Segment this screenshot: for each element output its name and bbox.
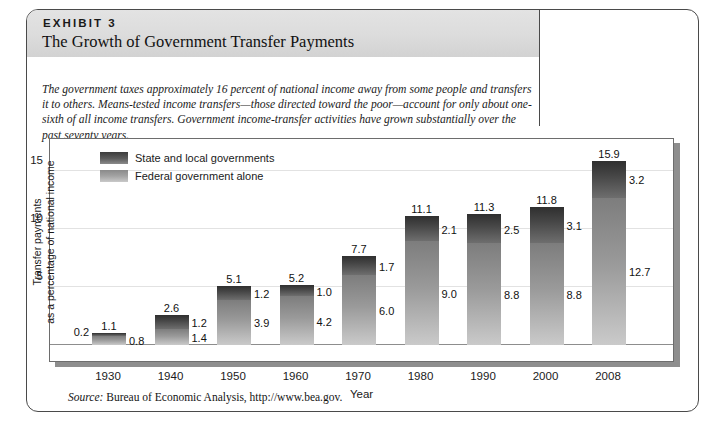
- bar-segment-state-local: [155, 315, 189, 329]
- bar-state-local-label: 1.2: [254, 288, 269, 300]
- source-line: Source: Bureau of Economic Analysis, htt…: [68, 391, 342, 403]
- bar-total-label: 11.8: [536, 194, 557, 206]
- bar-group[interactable]: 5.11.23.9: [217, 286, 251, 345]
- bar-group[interactable]: 7.71.76.0: [342, 256, 376, 345]
- legend-item[interactable]: State and local governments: [100, 150, 274, 165]
- x-axis-tick-label: 1990: [470, 370, 496, 382]
- bar-segment-federal: [530, 243, 564, 345]
- bar-segment-federal: [405, 241, 439, 345]
- exhibit-kicker: EXHIBIT 3: [43, 17, 117, 29]
- bar-segment-state-local: [280, 285, 314, 297]
- x-axis-ticks: 193019401950196019701980199020002008: [49, 370, 674, 386]
- bar-state-local-label: 0.2: [74, 326, 89, 338]
- page-title: The Growth of Government Transfer Paymen…: [42, 32, 354, 52]
- bar-segment-federal: [217, 300, 251, 345]
- bar-group[interactable]: 11.32.58.8: [467, 214, 501, 345]
- bar-segment-federal: [155, 329, 189, 345]
- plot-area: State and local governmentsFederal gover…: [49, 138, 674, 362]
- bar-total-label: 11.1: [411, 203, 432, 215]
- bar-group[interactable]: 15.93.212.7: [592, 161, 626, 345]
- bar-segment-state-local: [530, 207, 564, 243]
- x-axis-tick-label: 1940: [158, 370, 184, 382]
- bar-group[interactable]: 1.10.20.8: [92, 333, 126, 345]
- bar-federal-label: 1.4: [192, 332, 207, 344]
- exhibit-header-band: EXHIBIT 3 The Growth of Government Trans…: [27, 10, 539, 57]
- bar-state-local-label: 3.2: [629, 174, 644, 186]
- x-axis-tick-label: 1950: [220, 370, 246, 382]
- exhibit-frame: EXHIBIT 3 The Growth of Government Trans…: [26, 9, 699, 412]
- bar-total-label: 15.9: [598, 148, 619, 160]
- bar-federal-label: 3.9: [254, 317, 269, 329]
- bar-group[interactable]: 11.83.18.8: [530, 207, 564, 345]
- bar-segment-state-local: [405, 216, 439, 240]
- bar-state-local-label: 2.1: [442, 224, 457, 236]
- x-axis-tick-label: 1970: [345, 370, 371, 382]
- x-axis-tick-label: 1930: [95, 370, 121, 382]
- bar-state-local-label: 3.1: [567, 220, 582, 232]
- source-text: Bureau of Economic Analysis, http://www.…: [103, 391, 342, 403]
- bar-segment-federal: [92, 336, 126, 345]
- exhibit-description: The government taxes approximately 16 pe…: [42, 82, 537, 144]
- header-divider: [539, 10, 540, 126]
- bar-total-label: 1.1: [101, 320, 116, 332]
- legend-label: Federal government alone: [135, 170, 263, 182]
- bar-segment-federal: [467, 243, 501, 345]
- bar-total-label: 5.2: [289, 272, 304, 284]
- bar-group[interactable]: 11.12.19.0: [405, 216, 439, 345]
- bar-segment-federal: [280, 296, 314, 345]
- bar-state-local-label: 1.0: [317, 286, 332, 298]
- bar-state-local-label: 1.2: [192, 317, 207, 329]
- bar-federal-label: 4.2: [317, 316, 332, 328]
- bar-segment-federal: [342, 275, 376, 345]
- bar-segment-state-local: [217, 286, 251, 300]
- bar-federal-label: 9.0: [442, 288, 457, 300]
- legend-label: State and local governments: [135, 152, 274, 164]
- source-label: Source:: [68, 391, 103, 403]
- x-axis-tick-label: 1980: [408, 370, 434, 382]
- bar-total-label: 11.3: [474, 201, 495, 213]
- legend-swatch-icon: [100, 152, 128, 164]
- y-axis-title-line2: as a percentage of national income: [44, 150, 57, 334]
- bar-segment-state-local: [467, 214, 501, 243]
- bar-total-label: 7.7: [351, 243, 366, 255]
- bar-federal-label: 6.0: [379, 305, 394, 317]
- legend-item[interactable]: Federal government alone: [100, 168, 274, 183]
- bar-federal-label: 12.7: [629, 266, 650, 278]
- bar-federal-label: 0.8: [129, 335, 144, 347]
- bar-segment-federal: [592, 198, 626, 345]
- bar-state-local-label: 1.7: [379, 261, 394, 273]
- bar-total-label: 5.1: [226, 273, 241, 285]
- chart-container: State and local governmentsFederal gover…: [49, 138, 681, 367]
- bar-state-local-label: 2.5: [504, 224, 519, 236]
- x-axis-tick-label: 2000: [533, 370, 559, 382]
- bar-segment-state-local: [342, 256, 376, 276]
- bar-federal-label: 8.8: [567, 289, 582, 301]
- bar-total-label: 2.6: [164, 302, 179, 314]
- x-axis-tick-label: 1960: [283, 370, 309, 382]
- bar-group[interactable]: 2.61.21.4: [155, 315, 189, 345]
- bar-segment-state-local: [592, 161, 626, 198]
- y-axis-title-line1: Transfer payments: [31, 150, 44, 334]
- x-axis-tick-label: 2008: [595, 370, 621, 382]
- y-axis-title: Transfer paymentsas a percentage of nati…: [31, 150, 56, 334]
- legend-swatch-icon: [100, 170, 128, 182]
- bar-federal-label: 8.8: [504, 289, 519, 301]
- bar-group[interactable]: 5.21.04.2: [280, 285, 314, 345]
- chart-legend: State and local governmentsFederal gover…: [100, 150, 274, 186]
